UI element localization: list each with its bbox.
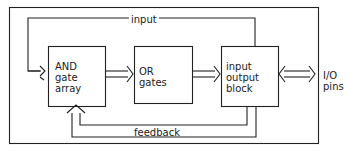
io-pins-line-1: I/O [323, 70, 344, 81]
io-pins-line-2: pins [323, 81, 344, 92]
io-block-line-2: output [226, 72, 259, 83]
and-block-line-3: array [55, 83, 81, 94]
and-block-line-1: AND [55, 61, 81, 72]
or-gates-block: OR gates [139, 66, 167, 88]
io-pins-label: I/O pins [323, 70, 344, 92]
and-gate-array-block: AND gate array [55, 61, 81, 94]
io-block-line-3: block [226, 83, 259, 94]
or-block-line-1: OR [139, 66, 167, 77]
input-output-block: input output block [226, 61, 259, 94]
feedback-label: feedback [134, 127, 180, 138]
io-pins-arrow-icon [279, 66, 315, 82]
input-label: input [129, 14, 159, 25]
and-block-line-2: gate [55, 72, 81, 83]
or-block-line-2: gates [139, 77, 167, 88]
input-arrow-icon [28, 66, 45, 80]
or-to-io-arrow-icon [192, 66, 220, 82]
and-to-or-arrow-icon [105, 66, 133, 82]
io-block-line-1: input [226, 61, 259, 72]
